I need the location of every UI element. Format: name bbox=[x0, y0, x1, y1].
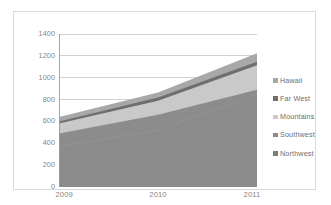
chart-frame: 1400120010008006004002000 200920102011 H… bbox=[13, 11, 316, 190]
legend-item-label: Hawaii bbox=[280, 77, 302, 85]
legend-swatch-icon bbox=[273, 115, 278, 120]
y-axis-tick-label: 1200 bbox=[39, 52, 55, 59]
y-axis-tick-label: 0 bbox=[51, 183, 55, 190]
y-axis-tick-label: 800 bbox=[43, 96, 55, 103]
y-axis-tick-label: 600 bbox=[43, 117, 55, 124]
legend-swatch-icon bbox=[273, 151, 278, 156]
legend-swatch-icon bbox=[273, 133, 278, 138]
legend-item-label: Mountains bbox=[280, 113, 315, 121]
x-axis-tick-label: 2011 bbox=[244, 191, 261, 199]
y-axis-tick-label: 400 bbox=[43, 139, 55, 146]
legend-item-label: Northwest bbox=[280, 150, 314, 158]
legend-item-label: Far West bbox=[280, 95, 310, 103]
plot-area: 1400120010008006004002000 200920102011 bbox=[59, 34, 257, 187]
legend-item-hawaii[interactable]: Hawaii bbox=[273, 76, 331, 85]
legend-item-northwest[interactable]: Northwest bbox=[273, 149, 331, 158]
legend-swatch-icon bbox=[273, 96, 278, 101]
y-axis-tick-label: 1400 bbox=[39, 30, 55, 37]
y-axis-tick-label: 1000 bbox=[39, 74, 55, 81]
y-axis-tick-label: 200 bbox=[43, 161, 55, 168]
legend-item-mountains[interactable]: Mountains bbox=[273, 112, 331, 121]
legend-item-southwest[interactable]: Southwest bbox=[273, 131, 331, 140]
area-series-group bbox=[59, 53, 257, 187]
x-axis-tick-label: 2009 bbox=[56, 191, 73, 199]
stacked-area-plot bbox=[59, 34, 257, 187]
chart-legend: HawaiiFar WestMountainsSouthwestNorthwes… bbox=[273, 76, 331, 167]
x-axis-tick-label: 2010 bbox=[149, 191, 166, 199]
legend-item-far-west[interactable]: Far West bbox=[273, 94, 331, 103]
chart-container: 1400120010008006004002000 200920102011 H… bbox=[0, 0, 331, 205]
legend-item-label: Southwest bbox=[280, 131, 315, 139]
legend-swatch-icon bbox=[273, 78, 278, 83]
